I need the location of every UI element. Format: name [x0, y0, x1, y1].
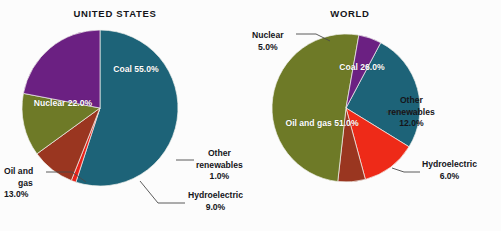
world-oil-and-gas-name: Oil and gas: [285, 118, 331, 128]
us-oil-and-gas-name1: Oil and: [4, 166, 33, 176]
us-callout-other-renewables: Other renewables 1.0%: [196, 148, 243, 183]
us-hydroelectric-leader: [140, 181, 185, 203]
us-hydroelectric-pct: 9.0%: [188, 202, 243, 214]
us-slice-label-nuclear: Nuclear 22.0%: [32, 98, 94, 110]
us-other-renewables-name1: Other: [208, 148, 231, 158]
us-nuclear-name: Nuclear: [34, 98, 66, 108]
world-slice-label-coal: Coal 26.0%: [334, 62, 390, 74]
us-other-renewables-name2: renewables: [196, 160, 243, 170]
us-slice-label-coal: Coal 55.0%: [104, 64, 168, 76]
world-other-renewables-name1: Other: [400, 95, 423, 105]
world-hydroelectric-name: Hydroelectric: [422, 159, 477, 169]
world-callout-nuclear: Nuclear 5.0%: [252, 30, 284, 53]
us-hydroelectric-name: Hydroelectric: [188, 190, 243, 200]
world-coal-pct: 26.0%: [360, 62, 384, 72]
us-oil-and-gas-name2: gas: [4, 178, 33, 190]
us-nuclear-pct: 22.0%: [68, 98, 92, 108]
world-coal-name: Coal: [339, 62, 358, 72]
world-oil-and-gas-pct: 51.0%: [334, 118, 358, 128]
pie-chart-figure: UNITED STATES WORLD Coal 55.0% Nuclear 2…: [0, 0, 501, 231]
us-coal-name: Coal: [113, 64, 132, 74]
world-nuclear-pct: 5.0%: [252, 42, 284, 54]
world-other-renewables-name2: renewables: [388, 107, 435, 117]
us-callout-oil-and-gas: Oil and gas 13.0%: [4, 166, 33, 201]
us-other-renewables-pct: 1.0%: [196, 171, 243, 183]
world-other-renewables-pct: 12.0%: [388, 118, 435, 130]
world-nuclear-name: Nuclear: [252, 30, 284, 40]
world-hydroelectric-leader: [392, 168, 420, 172]
world-slice-label-oil-and-gas: Oil and gas 51.0%: [282, 118, 362, 130]
world-hydroelectric-pct: 6.0%: [422, 171, 477, 183]
us-oil-and-gas-pct: 13.0%: [4, 189, 33, 201]
us-coal-pct: 55.0%: [134, 64, 158, 74]
us-callout-hydroelectric: Hydroelectric 9.0%: [188, 190, 243, 213]
world-callout-hydroelectric: Hydroelectric 6.0%: [422, 159, 477, 182]
world-callout-other-renewables: Other renewables 12.0%: [388, 95, 435, 130]
